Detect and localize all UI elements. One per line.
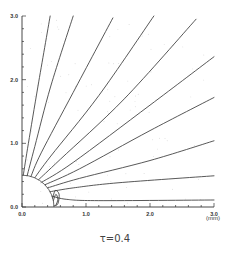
sphere-obstacle <box>22 175 54 207</box>
streamline-4 <box>35 16 154 178</box>
streamline-7 <box>45 97 214 184</box>
x-axis-unit-label: (mm) <box>206 215 220 221</box>
streamline-2 <box>27 16 73 176</box>
obstacle-outline <box>22 175 54 207</box>
streamlines <box>23 16 214 206</box>
x-tick-label: 0.0 <box>18 211 26 217</box>
streamline-9 <box>50 176 214 192</box>
y-tick-label: 3.0 <box>10 13 18 19</box>
x-tick-label: 2.0 <box>146 211 154 217</box>
x-tick-label: 1.0 <box>82 211 90 217</box>
streamline-5 <box>39 19 196 179</box>
streamline-3 <box>31 18 113 177</box>
background-dots <box>27 20 204 204</box>
axes <box>22 16 214 207</box>
streamline-10 <box>52 196 214 200</box>
x-axis-tick-labels: 0.01.02.03.0 <box>18 211 218 217</box>
y-tick-label: 0.0 <box>10 204 18 210</box>
chart-caption: τ=0.4 <box>0 233 230 244</box>
y-axis-tick-labels: 0.01.02.03.0 <box>10 13 18 210</box>
streamline-1 <box>23 16 50 175</box>
y-tick-label: 1.0 <box>10 140 18 146</box>
y-tick-label: 2.0 <box>10 77 18 83</box>
streamline-6 <box>42 57 214 182</box>
streamline-chart: 0.01.02.03.0 0.01.02.03.0 (mm) <box>0 0 230 254</box>
